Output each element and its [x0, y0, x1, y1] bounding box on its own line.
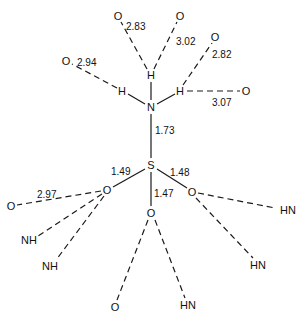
atom-o-297: O	[7, 200, 16, 212]
hbond-oright-hn2	[196, 198, 253, 258]
atom-h-top: H	[147, 69, 155, 81]
atom-o-294: O	[62, 55, 71, 67]
atom-h-right: H	[176, 85, 184, 97]
atom-hn-1: HN	[280, 204, 296, 216]
atom-hn-2: HN	[250, 259, 266, 271]
atom-labels: N S H H H O O O O O O O O O O NH NH HN H…	[7, 10, 296, 313]
label-s-o-right-length: 1.48	[170, 167, 190, 178]
hydrogen-bonds	[17, 22, 275, 300]
bond-n-h-left	[128, 94, 145, 104]
label-n-s-length: 1.73	[155, 125, 175, 136]
atom-o-bottom: O	[111, 301, 120, 313]
label-s-o-left-length: 1.49	[111, 166, 131, 177]
hbond-htop-o302	[154, 22, 177, 69]
label-hbond-283: 2.83	[126, 21, 146, 32]
atom-o-282: O	[211, 31, 220, 43]
hbond-hright-o282	[183, 43, 212, 85]
atom-o-sulfonyl-right: O	[188, 186, 197, 198]
label-hbond-307: 3.07	[212, 97, 232, 108]
atom-nh-1: NH	[21, 234, 37, 246]
bond-n-h-right	[157, 94, 175, 104]
atom-h-left: H	[118, 85, 126, 97]
hbond-oleft-o297	[17, 191, 101, 205]
hbond-omid-obottom	[117, 220, 148, 300]
atom-o-sulfonyl-middle: O	[147, 207, 156, 219]
label-hbond-297: 2.97	[37, 189, 57, 200]
label-hbond-294: 2.94	[77, 57, 97, 68]
hbond-oright-hn1	[198, 193, 275, 208]
label-hbond-302: 3.02	[176, 36, 196, 47]
atom-o-302: O	[176, 10, 185, 22]
label-s-o-middle-length: 1.47	[154, 188, 174, 199]
sulfamic-acid-diagram: N S H H H O O O O O O O O O O NH NH HN H…	[0, 0, 306, 321]
atom-n: N	[147, 101, 155, 113]
atom-o-283: O	[114, 10, 123, 22]
hbond-hleft-o294	[72, 64, 117, 88]
atom-nh-2: NH	[42, 260, 58, 272]
atom-o-sulfonyl-left: O	[103, 184, 112, 196]
atom-hn-3: HN	[180, 299, 196, 311]
atom-o-307: O	[242, 85, 251, 97]
hbond-omid-hn3	[155, 220, 185, 298]
atom-s: S	[147, 159, 154, 171]
hbond-oleft-nh2	[56, 196, 104, 260]
figure-caption-cutoff	[20, 316, 300, 321]
label-hbond-282: 2.82	[212, 49, 232, 60]
